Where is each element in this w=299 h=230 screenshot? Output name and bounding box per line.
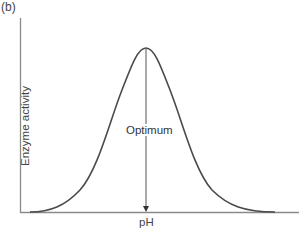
optimum-arrow-head	[143, 206, 149, 212]
chart-canvas	[0, 0, 299, 230]
optimum-annotation: Optimum	[125, 124, 174, 136]
